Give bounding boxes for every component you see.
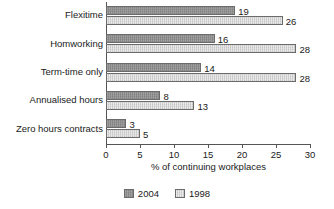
bar-1998 [106,44,296,53]
x-axis-tick-label: 5 [137,149,142,160]
bar-value-label: 8 [163,92,168,101]
plot-area: 05101520253019261628142881335 [106,2,310,144]
bar-value-label: 14 [204,64,215,73]
bar-2004 [106,119,126,128]
x-axis-tick-label: 20 [237,149,248,160]
category-label: Zero hours contracts [0,124,103,134]
bar-value-label: 28 [299,45,310,54]
bar-2004 [106,63,201,72]
x-axis-tick-label: 25 [271,149,282,160]
category-label: Term-time only [0,67,103,77]
legend-swatch-2004-icon [124,189,134,198]
x-axis-tick [276,145,277,148]
x-axis-tick-label: 15 [203,149,214,160]
x-axis-tick-label: 30 [305,149,316,160]
x-axis-tick [106,145,107,148]
bar-value-label: 26 [286,17,297,26]
x-axis-tick [242,145,243,148]
x-axis-tick-label: 0 [103,149,108,160]
bar-value-label: 28 [299,74,310,83]
category-label: Annualised hours [0,95,103,105]
category-axis-labels: FlexitimeHomworkingTerm-time onlyAnnuali… [0,0,103,146]
x-axis-tick [208,145,209,148]
category-label: Homworking [0,39,103,49]
x-axis-tick [174,145,175,148]
bar-1998 [106,73,296,82]
bar-2004 [106,34,215,43]
bar-value-label: 3 [129,120,134,129]
bar-value-label: 13 [197,102,208,111]
bar-value-label: 19 [238,7,249,16]
bar-1998 [106,16,283,25]
chart-legend: 2004 1998 [0,188,334,199]
legend-label-1998: 1998 [189,188,210,199]
bar-2004 [106,6,235,15]
bar-value-label: 5 [143,130,148,139]
bar-1998 [106,129,140,138]
horizontal-bar-chart: FlexitimeHomworkingTerm-time onlyAnnuali… [0,0,334,209]
legend-item-1998: 1998 [175,188,210,199]
bar-2004 [106,91,160,100]
x-axis-title: % of continuing workplaces [106,161,311,172]
bar-1998 [106,101,194,110]
x-axis-tick-label: 10 [169,149,180,160]
bar-value-label: 16 [218,35,229,44]
legend-item-2004: 2004 [124,188,159,199]
x-axis-tick [310,145,311,148]
legend-label-2004: 2004 [138,188,159,199]
x-axis-tick [140,145,141,148]
category-label: Flexitime [0,10,103,20]
legend-swatch-1998-icon [175,189,185,198]
